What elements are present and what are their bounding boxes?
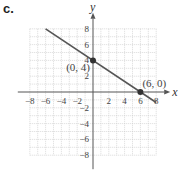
x-axis-arrow-icon <box>164 90 170 95</box>
data-point <box>90 57 96 63</box>
point-label: (0, 4) <box>66 61 90 74</box>
x-tick-label: 6 <box>138 96 143 106</box>
y-tick-label: 6 <box>85 40 90 50</box>
x-axis-label: x <box>171 85 178 99</box>
y-tick-label: −8 <box>79 150 89 160</box>
x-tick-label: −4 <box>57 96 67 106</box>
y-tick-label: −6 <box>79 134 89 144</box>
y-tick-label: −4 <box>79 119 89 129</box>
point-label: (6, 0) <box>142 77 166 90</box>
y-tick-label: 8 <box>85 24 90 34</box>
x-tick-label: −8 <box>25 96 35 106</box>
y-tick-label: −2 <box>79 103 89 113</box>
coordinate-plane: xy−8−6−4−224688642−2−4−6−8(0, 4)(6, 0) <box>0 0 181 177</box>
x-tick-label: 2 <box>107 96 112 106</box>
x-tick-label: −6 <box>41 96 51 106</box>
y-axis-label: y <box>89 0 96 14</box>
data-point <box>137 89 143 95</box>
x-tick-label: 4 <box>122 96 127 106</box>
